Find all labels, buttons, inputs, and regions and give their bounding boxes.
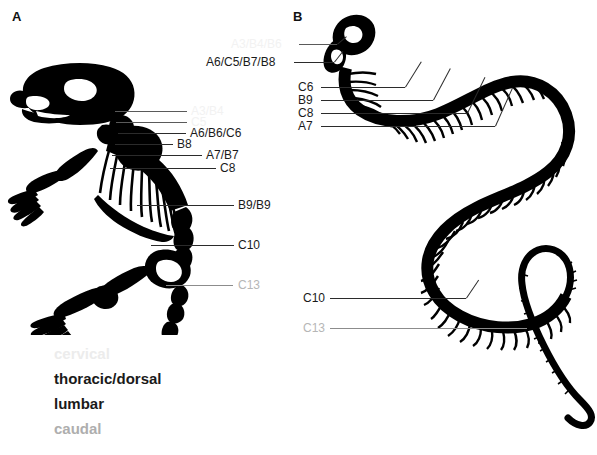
mouse-skeleton-illustration: [6, 55, 196, 335]
snake-leader-a6c5b7b8: [294, 62, 334, 63]
snake-label-c10: C10: [303, 292, 325, 304]
snake-leader-c13: [330, 328, 527, 329]
mouse-label-a6b6c6: A6/B6/C6: [190, 127, 241, 139]
legend-item-cervical: cervical: [54, 341, 264, 366]
snake-label-b9: B9: [298, 94, 313, 106]
mouse-label-c8: C8: [220, 162, 235, 174]
mouse-leader-c10: [151, 245, 234, 246]
snake-leader-a3b4b6: [299, 44, 337, 45]
mouse-leader-a3b4: [115, 111, 187, 112]
snake-label-c8: C8: [298, 107, 313, 119]
mouse-leader-c8: [110, 168, 216, 169]
mouse-leader-c13: [166, 285, 233, 286]
panel-letter-a: A: [12, 9, 21, 24]
snake-skeleton-illustration: [280, 8, 597, 448]
snake-label-a3b4b6: A3/B4/B6: [231, 38, 282, 50]
snake-label-c13: C13: [303, 322, 325, 334]
legend-item-caudal: caudal: [54, 416, 264, 441]
snake-leader-a7: [321, 126, 495, 127]
mouse-label-c10: C10: [238, 239, 260, 251]
region-legend: cervical thoracic/dorsal lumbar caudal: [54, 341, 264, 441]
snake-label-a6c5b7b8: A6/C5/B7/B8: [206, 56, 275, 68]
snake-label-a7: A7: [298, 120, 313, 132]
snake-leader-b9: [321, 100, 433, 101]
mouse-leader-b8: [115, 144, 173, 145]
mouse-leader-c5: [116, 122, 187, 123]
mouse-label-b9b9: B9/B9: [238, 199, 271, 211]
mouse-leader-a6b6c6: [118, 133, 186, 134]
snake-leader-c10: [330, 298, 466, 299]
mouse-leader-a7b7: [112, 155, 202, 156]
mouse-label-c13: C13: [238, 279, 260, 291]
legend-item-thoracic-dorsal: thoracic/dorsal: [54, 366, 264, 391]
legend-item-lumbar: lumbar: [54, 391, 264, 416]
mouse-leader-b9b9: [137, 205, 234, 206]
mouse-label-b8: B8: [177, 138, 192, 150]
figure-canvas: A B: [0, 0, 597, 455]
mouse-label-a7b7: A7/B7: [206, 149, 239, 161]
snake-leader-c8: [321, 113, 467, 114]
snake-label-c6: C6: [298, 81, 313, 93]
snake-leader-c6: [321, 87, 405, 88]
